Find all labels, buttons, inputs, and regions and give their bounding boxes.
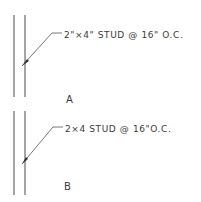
stud-notation-diagram: 2"×4" STUD @ 16" O.C. A 2×4 STUD @ 16"O.… bbox=[0, 0, 201, 202]
detail-a: 2"×4" STUD @ 16" O.C. A bbox=[14, 15, 183, 105]
detail-label-a: A bbox=[66, 94, 73, 105]
detail-label-b: B bbox=[64, 181, 71, 192]
detail-b: 2×4 STUD @ 16"O.C. B bbox=[14, 111, 171, 195]
note-a: 2"×4" STUD @ 16" O.C. bbox=[64, 30, 183, 40]
leader-line-b bbox=[22, 127, 63, 164]
note-b: 2×4 STUD @ 16"O.C. bbox=[65, 124, 171, 134]
